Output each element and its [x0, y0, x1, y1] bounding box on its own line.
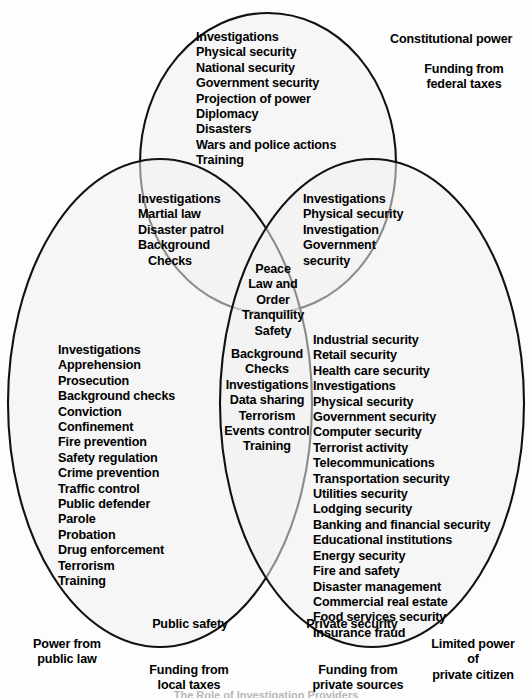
label-power-from-public-law-text: Power from public law	[33, 637, 101, 666]
label-constitutional-power: Constitutional power	[390, 32, 512, 47]
federal-private-items-text: Investigations Physical security Investi…	[303, 192, 403, 268]
private-security-items-text: Industrial security Retail security Heal…	[313, 333, 490, 640]
local-private-items-text: Background Checks Investigations Data sh…	[224, 347, 309, 453]
label-limited-power: Limited power of private citizen	[414, 637, 532, 683]
label-constitutional-power-text: Constitutional power	[390, 32, 512, 46]
label-federal-funding: Funding from federal taxes	[404, 62, 524, 93]
federal-private-intersection-list: Investigations Physical security Investi…	[303, 192, 403, 269]
core-intersection-list: Peace Law and Order Tranquility Safety	[225, 262, 321, 339]
label-private-security: Private security	[292, 617, 412, 632]
label-limited-power-text: Limited power of private citizen	[431, 637, 514, 682]
label-federal-funding-text: Funding from federal taxes	[424, 62, 503, 91]
public-safety-items-text: Investigations Apprehension Prosecution …	[58, 343, 175, 588]
federal-items-text: Investigations Physical security Nationa…	[196, 30, 336, 167]
label-local-funding-text: Funding from local taxes	[149, 663, 228, 692]
core-items-text: Peace Law and Order Tranquility Safety	[242, 262, 304, 338]
label-public-safety-text: Public safety	[152, 617, 228, 631]
public-safety-items-list: Investigations Apprehension Prosecution …	[58, 343, 175, 590]
federal-local-intersection-list: Investigations Martial law Disaster patr…	[138, 192, 224, 269]
label-private-security-text: Private security	[306, 617, 397, 631]
figure-caption: The Role of Investigation Providers	[0, 689, 532, 698]
private-security-items-list: Industrial security Retail security Heal…	[313, 333, 490, 641]
local-private-intersection-list: Background Checks Investigations Data sh…	[208, 347, 326, 455]
venn-diagram-page: Investigations Physical security Nationa…	[0, 0, 532, 698]
federal-items-list: Investigations Physical security Nationa…	[196, 30, 336, 169]
label-power-from-public-law: Power from public law	[8, 637, 126, 668]
label-public-safety: Public safety	[130, 617, 250, 632]
label-private-funding-text: Funding from private sources	[313, 663, 404, 692]
federal-local-items-text: Investigations Martial law Disaster patr…	[138, 192, 224, 268]
